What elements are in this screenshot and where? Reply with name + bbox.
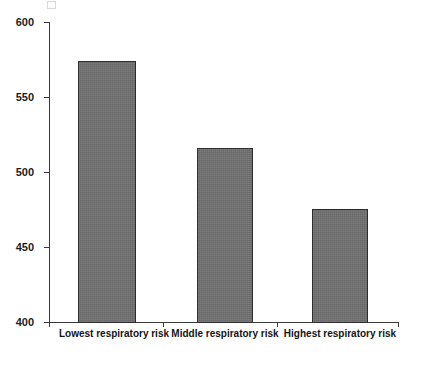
y-tick-label-450: 450 bbox=[0, 241, 34, 253]
y-tick-label-500: 500 bbox=[0, 166, 34, 178]
bar-middle-respiratory-risk bbox=[197, 148, 253, 323]
bar-lowest-respiratory-risk bbox=[78, 61, 136, 323]
y-tick-mark-550 bbox=[44, 97, 50, 98]
bar-highest-respiratory-risk bbox=[312, 209, 368, 323]
x-tick-mark-0 bbox=[49, 322, 50, 327]
top-artifact-marker bbox=[47, 1, 56, 9]
figure-caption-strip bbox=[6, 349, 415, 364]
y-tick-mark-500 bbox=[44, 172, 50, 173]
y-tick-mark-450 bbox=[44, 247, 50, 248]
y-tick-label-400: 400 bbox=[0, 316, 34, 328]
x-axis-label-highest: Highest respiratory risk bbox=[262, 328, 418, 339]
bar-chart: 600 550 500 450 400 Lowest respiratory r… bbox=[0, 0, 421, 366]
y-tick-label-550: 550 bbox=[0, 91, 34, 103]
x-tick-mark-1 bbox=[163, 322, 164, 327]
x-tick-mark-3 bbox=[398, 322, 399, 327]
x-tick-mark-2 bbox=[277, 322, 278, 327]
y-tick-mark-600 bbox=[44, 22, 50, 23]
y-tick-label-600: 600 bbox=[0, 16, 34, 28]
